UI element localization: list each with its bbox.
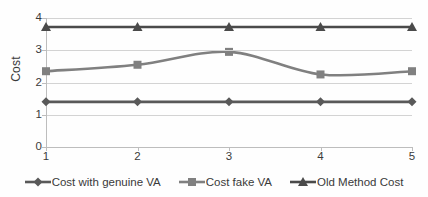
legend-label: Cost with genuine VA	[52, 176, 161, 188]
y-tick-label: 3	[14, 44, 42, 56]
plot-area	[46, 18, 412, 147]
triangle-marker-icon	[290, 175, 316, 189]
y-tick-label: 1	[14, 109, 42, 121]
diamond-marker-icon	[33, 178, 42, 187]
x-tick-label: 5	[397, 150, 427, 162]
chart-legend: Cost with genuine VACost fake VAOld Meth…	[0, 172, 428, 192]
square-marker-icon	[408, 67, 416, 75]
diamond-marker-icon	[316, 97, 325, 106]
legend-item-triangle[interactable]: Old Method Cost	[290, 175, 403, 189]
legend-item-square[interactable]: Cost fake VA	[179, 175, 272, 189]
legend-label: Old Method Cost	[317, 176, 403, 188]
square-marker-icon	[179, 175, 205, 189]
x-tick-mark	[138, 147, 139, 151]
x-tick-label: 2	[123, 150, 153, 162]
y-tick-mark	[42, 18, 47, 19]
square-marker-icon	[134, 61, 142, 69]
legend-label: Cost fake VA	[206, 176, 272, 188]
x-tick-label: 3	[214, 150, 244, 162]
y-tick-label: 4	[14, 12, 42, 24]
x-tick-label: 1	[31, 150, 61, 162]
diamond-marker-icon	[42, 97, 51, 106]
gridline	[46, 50, 412, 51]
x-axis-tick-labels: 12345	[0, 150, 428, 166]
cost-comparison-line-chart: Cost 43210 12345 Cost with genuine VACos…	[0, 0, 428, 197]
x-tick-mark	[412, 147, 413, 151]
x-tick-label: 4	[306, 150, 336, 162]
square-marker-icon	[42, 67, 50, 75]
square-marker-icon	[317, 70, 325, 78]
y-tick-label: 2	[14, 77, 42, 89]
gridline	[46, 18, 412, 19]
square-marker-icon	[225, 48, 233, 56]
y-tick-mark	[42, 115, 47, 116]
diamond-marker-icon	[133, 97, 142, 106]
diamond-marker-icon	[25, 175, 51, 189]
x-tick-mark	[229, 147, 230, 151]
diamond-marker-icon	[408, 97, 417, 106]
y-axis-tick-labels: 43210	[12, 0, 42, 160]
gridline	[46, 115, 412, 116]
x-tick-mark	[46, 147, 47, 151]
diamond-marker-icon	[225, 97, 234, 106]
y-tick-mark	[42, 50, 47, 51]
x-tick-mark	[321, 147, 322, 151]
y-tick-mark	[42, 83, 47, 84]
gridline	[46, 83, 412, 84]
square-marker-icon	[188, 178, 196, 186]
legend-item-diamond[interactable]: Cost with genuine VA	[25, 175, 161, 189]
